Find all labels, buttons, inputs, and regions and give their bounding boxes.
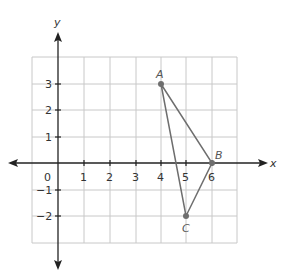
- x-tick-label: 5: [182, 171, 189, 184]
- x-tick-label: 2: [106, 171, 113, 184]
- point-a-label: A: [155, 68, 164, 81]
- point-c-label: C: [182, 222, 190, 235]
- point-a: [158, 81, 164, 87]
- y-tick-label: 2: [45, 104, 52, 117]
- x-tick-label: 6: [208, 171, 215, 184]
- point-b-label: B: [215, 149, 223, 162]
- grid: [32, 57, 237, 243]
- x-tick-label: 4: [157, 171, 164, 184]
- y-tick-label: 1: [45, 131, 52, 144]
- y-tick-label: −1: [36, 184, 52, 197]
- y-tick-label: −2: [36, 210, 52, 223]
- x-axis-label: x: [269, 157, 277, 170]
- point-c: [183, 213, 189, 219]
- y-tick-label: 3: [45, 78, 52, 91]
- origin-label: 0: [44, 171, 51, 184]
- x-tick-label: 3: [132, 171, 139, 184]
- y-axis-label: y: [53, 16, 61, 29]
- coordinate-plane: y x 0 1 2 3 4 5 6 3 2 1 −1 −2 A B C: [0, 0, 294, 277]
- x-tick-label: 1: [80, 171, 87, 184]
